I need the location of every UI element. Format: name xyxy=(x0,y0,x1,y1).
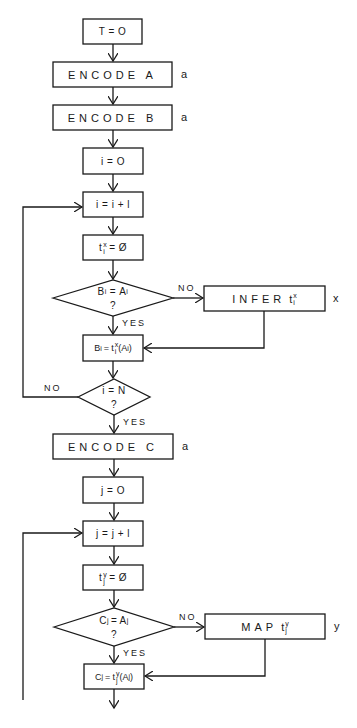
encode-c-side-label: a xyxy=(182,440,188,452)
node-j0: j = O xyxy=(83,477,143,503)
edge-label-no-1: NO xyxy=(178,283,196,293)
node-encode-a-label: ENCODE A xyxy=(68,69,157,81)
infer-side-label: x xyxy=(333,292,339,304)
map-word: MAP xyxy=(241,621,277,633)
dec1-rhs-sub: i xyxy=(126,288,128,295)
infer-sup: x xyxy=(293,292,297,299)
map-base: t xyxy=(281,621,284,633)
node-dec-i-eq-n: i = N xyxy=(94,383,134,397)
node-j0-label: j = O xyxy=(101,485,125,496)
node-assign-b: Bi = t x i (Ai) xyxy=(83,335,143,361)
dec3-op: = xyxy=(111,615,117,626)
node-encode-c: ENCODE C xyxy=(53,434,173,459)
assignb-arg: (A xyxy=(118,343,127,353)
node-encode-b-label: ENCODE B xyxy=(68,112,157,124)
node-infer: INFER t x i xyxy=(204,286,325,311)
node-t0-label: T = O xyxy=(99,26,127,37)
node-i0: i = O xyxy=(83,148,143,174)
node-t0: T = O xyxy=(83,19,142,44)
dec1-question: ? xyxy=(103,298,123,312)
node-j-inc: j = j + l xyxy=(83,521,143,546)
map-scripts: y j xyxy=(285,620,289,634)
assignb-op: = xyxy=(104,343,109,353)
assignb-lhs-sub: i xyxy=(100,345,102,352)
tx-sup: x xyxy=(103,241,107,248)
node-i0-label: i = O xyxy=(101,156,125,167)
ty-rest: = Ø xyxy=(109,572,127,583)
node-tx-reset: t x i = Ø xyxy=(83,235,143,260)
tx-rest: = Ø xyxy=(109,242,127,253)
node-dec-b-eq-a: Bi = Ai xyxy=(73,283,153,299)
infer-scripts: x i xyxy=(293,292,297,306)
assignc-lhs-sub: j xyxy=(102,673,104,680)
infer-base: t xyxy=(289,293,292,305)
edge-label-no-3: NO xyxy=(179,612,197,622)
ty-base: t xyxy=(99,572,102,583)
assignc-fn: t xyxy=(112,672,115,682)
edge-label-yes-1: YES xyxy=(122,318,146,328)
node-i-inc-label: i = i + l xyxy=(96,199,130,210)
assignc-op: = xyxy=(105,672,110,682)
tx-scripts: x i xyxy=(103,241,107,255)
node-encode-a: ENCODE A xyxy=(53,62,172,87)
tx-base: t xyxy=(99,242,102,253)
dec1-lhs: B xyxy=(98,286,105,297)
node-assign-c: Cj = t y j (Aj) xyxy=(84,664,144,689)
node-j-inc-label: j = j + l xyxy=(96,528,130,539)
edge-label-yes-3: YES xyxy=(123,648,147,658)
dec1-lhs-sub: i xyxy=(105,288,107,295)
infer-word: INFER xyxy=(232,293,285,305)
ty-sub: j xyxy=(103,578,107,585)
node-encode-c-label: ENCODE C xyxy=(68,441,158,453)
tx-sub: i xyxy=(103,248,107,255)
node-dec-c-eq-a: Cj = Aj xyxy=(74,612,154,628)
dec2-question: ? xyxy=(104,397,124,411)
assignb-close: ) xyxy=(129,343,132,353)
map-side-label: y xyxy=(334,620,340,632)
dec3-rhs-sub: j xyxy=(127,617,129,624)
edge-label-yes-2: YES xyxy=(123,417,147,427)
encode-b-side-label: a xyxy=(181,111,187,123)
node-ty-reset: t y j = Ø xyxy=(83,565,143,590)
map-sub: j xyxy=(285,627,289,634)
ty-scripts: y j xyxy=(103,571,107,585)
dec3-lhs-sub: j xyxy=(107,617,109,624)
node-i-inc: i = i + l xyxy=(83,192,143,217)
dec1-op: = xyxy=(110,286,116,297)
ty-sup: y xyxy=(103,571,107,578)
dec3-rhs: A xyxy=(119,615,126,626)
dec1-rhs: A xyxy=(119,286,126,297)
assignb-fn: t xyxy=(111,343,114,353)
encode-a-side-label: a xyxy=(181,68,187,80)
dec3-question: ? xyxy=(104,627,124,641)
edge-label-no-2: NO xyxy=(44,383,62,393)
infer-sub: i xyxy=(293,299,297,306)
dec3-lhs: C xyxy=(99,615,107,626)
node-map: MAP t y j xyxy=(205,614,325,639)
map-sup: y xyxy=(285,620,289,627)
node-encode-b: ENCODE B xyxy=(53,105,172,130)
assignc-close: ) xyxy=(130,672,133,682)
